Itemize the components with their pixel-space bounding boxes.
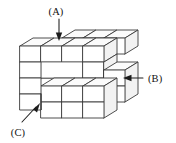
cube-group-upper-front <box>20 38 117 62</box>
cube-front-face <box>62 102 83 118</box>
cube-recess-inner-face <box>41 62 83 78</box>
cube-front-face <box>83 62 104 78</box>
cube-front-face <box>20 78 41 94</box>
cube-front-face <box>41 86 62 102</box>
cube-stack-illustration: (A) (B) (C) <box>0 0 176 143</box>
cube-front-face <box>83 102 104 118</box>
cube-front-face <box>62 46 83 62</box>
cube-group-lower-front <box>41 78 117 118</box>
cube-front-face <box>83 46 104 62</box>
cube-front-face <box>62 86 83 102</box>
cube-front-face <box>20 46 41 62</box>
cube-front-face <box>41 46 62 62</box>
cube-front-face <box>20 62 41 78</box>
figure-container: (A) (B) (C) <box>0 0 176 143</box>
callout-b-label: (B) <box>148 73 163 85</box>
callout-a: (A) <box>49 6 64 41</box>
cube-front-face <box>83 86 104 102</box>
callout-a-label: (A) <box>49 6 64 18</box>
callout-c-label: (C) <box>11 127 26 139</box>
cube-front-face <box>41 102 62 118</box>
